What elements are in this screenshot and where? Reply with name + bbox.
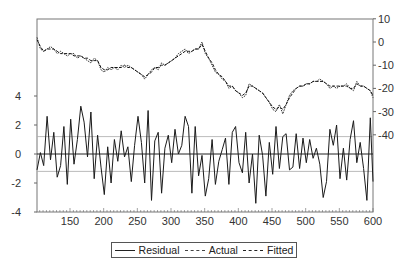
solid-line-icon [115, 250, 135, 251]
legend-actual-label: Actual [209, 244, 238, 256]
dotted-line-icon [185, 250, 205, 251]
right-tick-label: 10 [378, 13, 390, 25]
right-tick-label: -40 [378, 129, 394, 141]
plot-frame [37, 19, 373, 212]
right-tick-label: -20 [378, 82, 394, 94]
x-tick-label: 550 [330, 215, 348, 227]
legend-fitted: Fitted [243, 244, 293, 256]
x-tick-label: 250 [128, 215, 146, 227]
legend-residual-label: Residual [139, 244, 180, 256]
right-axis: 100-10-20-30-40 [373, 13, 394, 141]
x-tick-label: 300 [162, 215, 180, 227]
right-tick-label: -10 [378, 59, 394, 71]
x-tick-label: 500 [296, 215, 314, 227]
legend-actual: Actual [185, 244, 238, 256]
left-tick-label: 0 [15, 148, 21, 160]
left-tick-label: -2 [11, 177, 21, 189]
x-tick-label: 450 [263, 215, 281, 227]
left-tick-label: 4 [15, 90, 21, 102]
residual-actual-fitted-chart: 150200250300350400450500550600 420-2-4 1… [0, 0, 411, 269]
x-tick-label: 400 [229, 215, 247, 227]
x-tick-label: 200 [94, 215, 112, 227]
left-axis: 420-2-4 [11, 90, 37, 218]
right-tick-label: -30 [378, 106, 394, 118]
x-tick-label: 150 [61, 215, 79, 227]
legend-residual: Residual [115, 244, 180, 256]
legend-fitted-label: Fitted [267, 244, 293, 256]
right-tick-label: 0 [378, 36, 384, 48]
dashed-line-icon [243, 250, 263, 251]
x-tick-label: 350 [195, 215, 213, 227]
chart-legend: Residual Actual Fitted [111, 242, 297, 258]
x-tick-label: 600 [364, 215, 382, 227]
left-tick-label: -4 [11, 206, 21, 218]
left-tick-label: 2 [15, 119, 21, 131]
